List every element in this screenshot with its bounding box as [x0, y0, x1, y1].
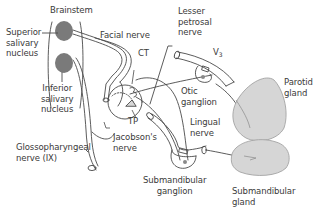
label-lingual-nerve: Lingual nerve	[190, 117, 220, 138]
label-lesser-petrosal-nerve: Lesser petrosal nerve	[178, 6, 212, 38]
label-tp: TP	[128, 116, 138, 127]
ct-leader	[132, 70, 134, 84]
tp-membrane	[126, 100, 136, 106]
label-otic-ganglion: Otic ganglion	[181, 86, 217, 107]
label-superior-salivary-nucleus: Superior salivary nucleus	[6, 27, 41, 59]
label-v3-subscript: 3	[219, 51, 223, 58]
label-brainstem: Brainstem	[50, 5, 93, 16]
label-submandibular-gland: Submandibular gland	[232, 186, 295, 207]
submandibular-gland-shape	[231, 140, 289, 176]
label-submandibular-ganglion: Submandibular ganglion	[143, 175, 206, 196]
label-ct: CT	[138, 48, 149, 59]
label-glossopharyngeal-nerve: Glossopharyngeal nerve (IX)	[16, 142, 91, 163]
label-facial-nerve: Facial nerve	[100, 30, 150, 41]
parotid-gland-shape	[233, 78, 286, 141]
lesser-petrosal-leader	[150, 46, 172, 104]
label-v3: V3	[213, 47, 222, 61]
tympanic-cavity	[108, 85, 142, 119]
superior-salivary-nucleus	[55, 21, 73, 41]
label-jacobsons-nerve: Jacobson's nerve	[113, 132, 157, 153]
label-inferior-salivary-nucleus: Inferior salivary nucleus	[41, 83, 73, 115]
jacobsons-leader	[104, 122, 110, 128]
inferior-salivary-nucleus	[55, 53, 73, 73]
label-parotid-gland: Parotid gland	[284, 77, 313, 98]
